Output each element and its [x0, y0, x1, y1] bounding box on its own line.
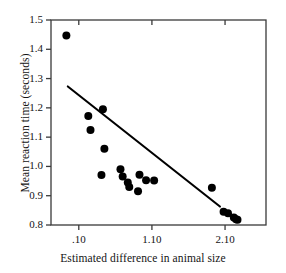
data-point [116, 165, 124, 173]
data-point [100, 145, 108, 153]
x-tick-label: 2.10 [205, 233, 245, 245]
x-tick-label: .10 [59, 233, 99, 245]
data-points [62, 32, 241, 224]
data-point [150, 176, 158, 184]
data-point [134, 187, 142, 195]
data-point [119, 172, 127, 180]
data-point [84, 112, 92, 120]
data-point [62, 32, 70, 40]
regression-line [68, 86, 220, 206]
data-point [208, 184, 216, 192]
data-point [142, 176, 150, 184]
data-point [125, 183, 133, 191]
x-axis-title: Estimated difference in animal size [0, 252, 286, 264]
scatter-plot-figure: 1.51.41.31.21.11.00.90.8 .101.102.10 Mea… [0, 0, 286, 273]
data-point [99, 105, 107, 113]
plot-border [51, 20, 266, 225]
data-point [97, 171, 105, 179]
x-tick-label: 1.10 [132, 233, 172, 245]
plot-frame [51, 20, 266, 225]
data-point [233, 216, 241, 224]
fit-line [68, 86, 220, 206]
axis-ticks [46, 20, 225, 230]
data-point [135, 171, 143, 179]
data-point [86, 126, 94, 134]
y-axis-title: Mean reaction time (seconds) [19, 13, 31, 233]
